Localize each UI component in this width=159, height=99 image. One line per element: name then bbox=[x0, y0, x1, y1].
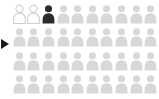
pictogram-cell bbox=[129, 49, 144, 73]
person-icon-body bbox=[145, 37, 157, 47]
pictogram-cell bbox=[85, 26, 100, 50]
person-icon-head bbox=[59, 52, 66, 59]
person-icon-head bbox=[89, 5, 96, 12]
person-icon bbox=[100, 4, 113, 24]
pictogram-cell bbox=[41, 73, 56, 97]
pictogram-cell bbox=[70, 49, 85, 73]
person-icon bbox=[115, 27, 128, 47]
pictogram-cell bbox=[143, 2, 158, 26]
person-icon-head bbox=[30, 52, 37, 59]
person-icon-body bbox=[130, 60, 142, 70]
person-icon-body bbox=[145, 84, 157, 94]
person-icon bbox=[130, 74, 143, 94]
person-icon-body bbox=[28, 84, 40, 94]
person-icon-head bbox=[45, 28, 52, 35]
pictogram-cell bbox=[143, 49, 158, 73]
person-icon bbox=[71, 74, 84, 94]
person-icon-head bbox=[103, 5, 110, 12]
pictogram-cell bbox=[12, 73, 27, 97]
person-icon bbox=[115, 74, 128, 94]
person-icon-body bbox=[28, 37, 40, 47]
person-icon-head bbox=[103, 75, 110, 82]
pictogram-cell bbox=[129, 73, 144, 97]
person-icon-body bbox=[130, 13, 142, 23]
person-icon-head bbox=[30, 5, 37, 12]
person-icon bbox=[115, 51, 128, 71]
person-icon bbox=[57, 27, 70, 47]
person-icon-head bbox=[59, 5, 66, 12]
person-icon bbox=[86, 74, 99, 94]
pictogram-cell bbox=[70, 2, 85, 26]
person-icon-head bbox=[59, 75, 66, 82]
person-icon-body bbox=[43, 13, 55, 23]
person-icon-body bbox=[86, 84, 98, 94]
person-icon-head bbox=[118, 28, 125, 35]
person-icon-head bbox=[45, 5, 52, 12]
person-icon-body bbox=[13, 37, 25, 47]
person-icon-head bbox=[147, 28, 154, 35]
person-icon bbox=[144, 27, 157, 47]
pictogram-cell bbox=[100, 73, 115, 97]
person-icon-body bbox=[13, 13, 25, 23]
person-icon-body bbox=[116, 37, 128, 47]
person-icon-body bbox=[72, 84, 84, 94]
pictogram-cell bbox=[70, 26, 85, 50]
pictogram-cell bbox=[114, 73, 129, 97]
person-icon-head bbox=[132, 5, 139, 12]
person-icon bbox=[13, 51, 26, 71]
pictogram-cell bbox=[100, 2, 115, 26]
person-icon-body bbox=[145, 13, 157, 23]
pictogram-cell bbox=[85, 2, 100, 26]
pictogram-cell bbox=[114, 2, 129, 26]
person-icon-head bbox=[132, 75, 139, 82]
person-icon-head bbox=[132, 28, 139, 35]
person-icon-head bbox=[74, 75, 81, 82]
pictogram-cell bbox=[100, 26, 115, 50]
person-icon-body bbox=[43, 84, 55, 94]
person-icon-body bbox=[57, 37, 69, 47]
person-icon bbox=[115, 4, 128, 24]
pictogram-figure bbox=[0, 0, 159, 99]
pictogram-cell bbox=[27, 49, 42, 73]
person-icon-head bbox=[89, 28, 96, 35]
person-icon-body bbox=[43, 37, 55, 47]
pictogram-cell bbox=[70, 73, 85, 97]
pictogram-cell bbox=[27, 26, 42, 50]
person-icon bbox=[86, 27, 99, 47]
pictogram-cell bbox=[41, 26, 56, 50]
person-icon bbox=[13, 74, 26, 94]
person-icon-head bbox=[103, 52, 110, 59]
person-icon-body bbox=[116, 60, 128, 70]
person-icon-head bbox=[118, 5, 125, 12]
person-icon bbox=[27, 74, 40, 94]
person-icon bbox=[100, 74, 113, 94]
person-icon bbox=[57, 74, 70, 94]
person-icon-head bbox=[147, 5, 154, 12]
person-icon-body bbox=[86, 60, 98, 70]
person-icon bbox=[13, 4, 26, 24]
pictogram-cell bbox=[27, 73, 42, 97]
person-icon bbox=[42, 4, 55, 24]
pictogram-cell bbox=[27, 2, 42, 26]
person-icon-body bbox=[116, 13, 128, 23]
person-icon bbox=[71, 51, 84, 71]
person-icon-head bbox=[118, 75, 125, 82]
person-icon bbox=[42, 51, 55, 71]
person-icon-head bbox=[147, 75, 154, 82]
person-icon bbox=[13, 27, 26, 47]
person-icon bbox=[86, 51, 99, 71]
person-icon bbox=[27, 4, 40, 24]
person-icon bbox=[144, 51, 157, 71]
person-icon-body bbox=[101, 13, 113, 23]
person-icon-body bbox=[13, 84, 25, 94]
person-icon-body bbox=[145, 60, 157, 70]
person-icon bbox=[86, 4, 99, 24]
person-icon bbox=[42, 74, 55, 94]
person-icon-body bbox=[86, 13, 98, 23]
person-icon-body bbox=[57, 84, 69, 94]
person-icon-head bbox=[16, 75, 23, 82]
person-icon bbox=[57, 51, 70, 71]
person-icon bbox=[144, 4, 157, 24]
person-icon-head bbox=[45, 75, 52, 82]
person-icon-head bbox=[59, 28, 66, 35]
